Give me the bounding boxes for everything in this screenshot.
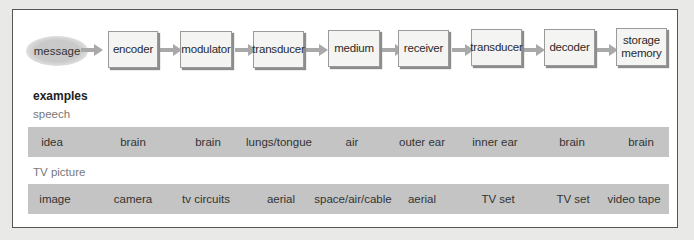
example-cell: brain: [120, 136, 146, 148]
stage-label: storage: [623, 34, 660, 47]
example-cell: outer ear: [399, 136, 445, 148]
stage-storage-memory: storage memory: [616, 28, 667, 66]
stage-label: encoder: [113, 43, 153, 56]
example-cell: TV set: [481, 193, 514, 205]
arrow-icon: [523, 44, 545, 56]
arrow-icon: [306, 44, 328, 56]
arrow-icon: [160, 44, 182, 56]
stage-medium: medium: [328, 30, 380, 67]
example-cell: image: [39, 193, 70, 205]
stage-label: medium: [334, 42, 374, 55]
example-row-speech: idea brain brain lungs/tongue air outer …: [28, 127, 669, 157]
example-cell: brain: [628, 136, 654, 148]
stage-label: transducer: [252, 43, 304, 56]
example-cell: aerial: [408, 193, 436, 205]
examples-heading: examples: [33, 89, 88, 103]
example-cell: space/air/cable: [314, 193, 391, 205]
category-tv-picture: TV picture: [33, 166, 85, 178]
source-label: message: [34, 45, 81, 57]
stage-label: modulator: [181, 43, 230, 56]
source-message-oval: message: [26, 36, 88, 66]
example-cell: camera: [114, 193, 152, 205]
category-speech: speech: [33, 108, 70, 120]
arrow-icon: [596, 44, 618, 56]
stage-label: memory: [621, 47, 661, 60]
stage-encoder: encoder: [108, 31, 158, 68]
example-cell: air: [346, 136, 359, 148]
stage-transducer-2: transducer: [471, 29, 522, 66]
stage-label: decoder: [549, 41, 589, 54]
stage-label: transducer: [470, 41, 522, 54]
stage-transducer: transducer: [253, 31, 304, 68]
example-row-tv-picture: image camera tv circuits aerial space/ai…: [28, 184, 669, 214]
example-cell: brain: [195, 136, 221, 148]
example-cell: brain: [559, 136, 585, 148]
example-cell: TV set: [556, 193, 589, 205]
example-cell: tv circuits: [182, 193, 230, 205]
stage-receiver: receiver: [398, 30, 449, 67]
stage-decoder: decoder: [544, 29, 595, 66]
example-cell: aerial: [267, 193, 295, 205]
stage-label: receiver: [404, 42, 443, 55]
example-cell: inner ear: [472, 136, 517, 148]
stage-modulator: modulator: [180, 31, 232, 68]
example-cell: idea: [41, 136, 63, 148]
arrow-icon: [81, 44, 103, 56]
example-cell: lungs/tongue: [246, 136, 312, 148]
example-cell: video tape: [607, 193, 660, 205]
